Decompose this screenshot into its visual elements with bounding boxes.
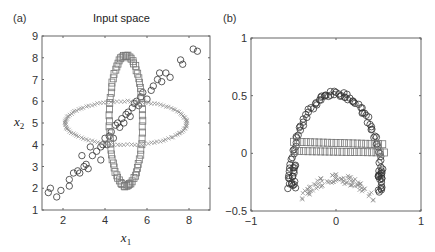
x-tick-label: 1: [418, 215, 424, 227]
series-s: [291, 138, 388, 156]
y-tick-label: 1: [32, 204, 38, 216]
y-axis-label: x2: [13, 114, 24, 131]
y-tick-label: 2: [32, 182, 38, 194]
series-x: [300, 172, 375, 202]
y-tick-label: 9: [32, 30, 38, 42]
series-x: [63, 99, 189, 147]
y-tick-label: 5: [32, 117, 38, 129]
y-tick-label: 4: [32, 139, 38, 151]
plot-b: −101−0.500.51: [225, 32, 424, 227]
y-tick-label: 0: [241, 147, 247, 159]
y-tick-label: 0.5: [232, 90, 247, 102]
x-tick-label: 6: [144, 214, 150, 226]
y-tick-label: −0.5: [225, 205, 247, 217]
x-tick-label: 8: [186, 214, 192, 226]
x-tick-label: 2: [60, 214, 66, 226]
x-tick-label: 0: [333, 215, 339, 227]
y-tick-label: 1: [241, 32, 247, 44]
y-tick-label: 8: [32, 52, 38, 64]
plot-a: 2468123456789x1x2: [13, 30, 210, 247]
axes-box: [251, 38, 421, 211]
y-tick-label: 6: [32, 95, 38, 107]
y-tick-label: 7: [32, 74, 38, 86]
y-tick-label: 3: [32, 161, 38, 173]
x-tick-label: 4: [102, 214, 108, 226]
series-o: [45, 46, 201, 200]
scatter-figure: 2468123456789x1x2−101−0.500.51: [0, 0, 435, 252]
x-axis-label: x1: [120, 230, 131, 247]
